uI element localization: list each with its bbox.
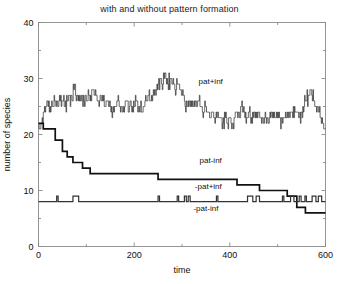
series-annotations: pat+infpat-inf-pat+inf-pat-inf — [193, 77, 223, 213]
axis-tick-labels: 0200400600010203040 — [23, 18, 333, 260]
series-label--pat-inf: -pat+inf — [195, 182, 223, 191]
x-axis-title: time — [173, 265, 190, 275]
chart-figure: with and without pattern formation 02004… — [0, 0, 339, 284]
y-tick-label: 0 — [28, 242, 33, 252]
x-tick-label: 600 — [318, 250, 333, 260]
y-tick-label: 30 — [23, 74, 33, 84]
series-label-pat-inf: pat+inf — [199, 77, 224, 86]
y-tick-label: 40 — [23, 18, 33, 28]
series-label--pat-inf: -pat-inf — [193, 204, 219, 213]
x-tick-label: 200 — [127, 250, 142, 260]
series-line-pat-plus-inf — [39, 73, 326, 129]
chart-plot-area: 0200400600010203040 pat+infpat-inf-pat+i… — [0, 0, 339, 284]
x-tick-label: 400 — [222, 250, 237, 260]
y-tick-label: 10 — [23, 186, 33, 196]
series-line-nopat-plus-inf — [39, 196, 326, 202]
plot-frame — [39, 23, 326, 247]
axis-ticks — [39, 23, 326, 247]
y-tick-label: 20 — [23, 130, 33, 140]
x-tick-label: 0 — [36, 250, 41, 260]
series-label-pat-inf: pat-inf — [200, 156, 223, 165]
y-axis-title: number of species — [2, 97, 12, 171]
series-lines — [39, 73, 326, 213]
